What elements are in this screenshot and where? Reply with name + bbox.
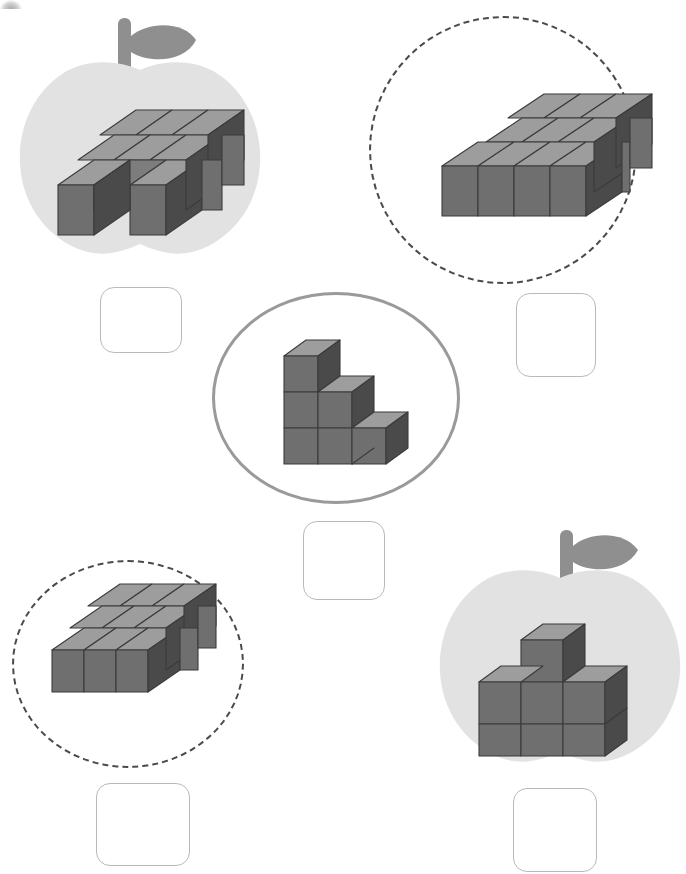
- cube-shape-bottom-left: [44, 580, 224, 700]
- answer-box-top-right[interactable]: [516, 293, 596, 377]
- cube-shape-top-left: [58, 95, 288, 245]
- option-bottom-right: [400, 520, 686, 874]
- cube-shape-center: [276, 334, 412, 470]
- answer-box-bottom-left[interactable]: [96, 783, 190, 866]
- cube-shape-top-right: [448, 90, 663, 230]
- worksheet-canvas: [0, 0, 686, 874]
- option-bottom-left: [0, 560, 300, 874]
- answer-box-bottom-right[interactable]: [513, 788, 597, 872]
- cube-shape-bottom-right: [480, 590, 655, 760]
- answer-box-center[interactable]: [303, 521, 385, 600]
- apple-leaf-icon-2: [573, 535, 638, 569]
- answer-box-top-left[interactable]: [100, 287, 182, 353]
- apple-leaf-icon: [131, 25, 196, 59]
